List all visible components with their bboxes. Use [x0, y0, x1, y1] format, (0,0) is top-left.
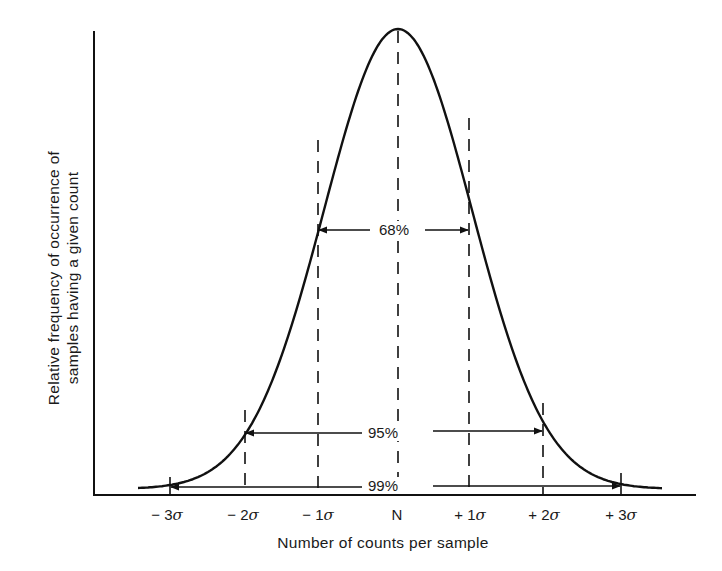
tick-plus1-sigma: + 1σ	[454, 506, 486, 524]
tick-plus2-sigma: + 2σ	[528, 506, 560, 524]
tick-minus2-sigma: − 2σ	[227, 506, 259, 524]
tick-plus3-sigma: + 3σ	[605, 506, 637, 524]
y-axis-title-line1: Relative frequency of occurrence of	[44, 151, 63, 405]
gaussian-curve	[138, 29, 662, 488]
gaussian-diagram	[0, 0, 722, 571]
interval-label-95: 95%	[366, 424, 400, 441]
tick-mean-n: N	[392, 506, 403, 523]
y-axis-title-line2: samples having a given count	[63, 151, 82, 405]
y-axis-title: Relative frequency of occurrence of samp…	[44, 151, 82, 405]
interval-label-99: 99%	[366, 477, 400, 494]
x-axis-title: Number of counts per sample	[277, 534, 488, 552]
interval-label-68: 68%	[377, 221, 411, 238]
tick-minus3-sigma: − 3σ	[151, 506, 183, 524]
tick-minus1-sigma: − 1σ	[302, 506, 334, 524]
